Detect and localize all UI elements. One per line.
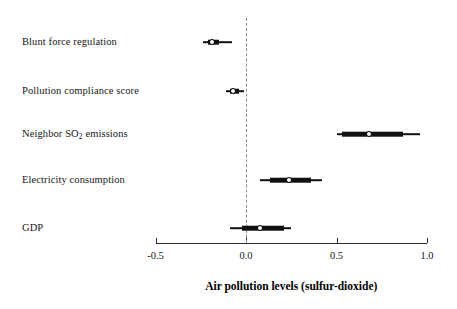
category-label-text: Blunt force regulation xyxy=(22,36,117,47)
x-axis-tick-label: 0.0 xyxy=(239,250,252,261)
x-axis-tick-label: 0.5 xyxy=(330,250,343,261)
category-label: Blunt force regulation xyxy=(22,36,117,47)
x-axis-tick xyxy=(337,238,338,243)
category-label: Neighbor SO2 emissions xyxy=(22,128,128,139)
x-axis-line xyxy=(156,243,428,244)
x-axis-title: Air pollution levels (sulfur-dioxide) xyxy=(205,280,377,292)
x-axis-tick-label: 1.0 xyxy=(420,250,433,261)
category-label-text: GDP xyxy=(22,222,43,233)
x-axis-tick xyxy=(427,238,428,243)
category-label: Pollution compliance score xyxy=(22,85,139,96)
coefficient-plot-figure: -0.50.00.51.0Blunt force regulationPollu… xyxy=(0,0,457,309)
x-axis-tick xyxy=(156,238,157,243)
category-label-text: Pollution compliance score xyxy=(22,85,139,96)
point-estimate-marker xyxy=(366,131,372,137)
zero-reference-line xyxy=(246,18,247,243)
inner-confidence-interval xyxy=(342,132,404,137)
category-label: Electricity consumption xyxy=(22,174,125,185)
category-label-subscript: 2 xyxy=(79,132,83,141)
category-label-text: Neighbor SO xyxy=(22,128,79,139)
point-estimate-marker xyxy=(209,39,215,45)
point-estimate-marker xyxy=(286,177,292,183)
point-estimate-marker xyxy=(257,225,263,231)
x-axis-tick-label: -0.5 xyxy=(147,250,164,261)
point-estimate-marker xyxy=(230,88,236,94)
category-label: GDP xyxy=(22,222,43,233)
category-label-suffix: emissions xyxy=(83,128,128,139)
category-label-text: Electricity consumption xyxy=(22,174,125,185)
